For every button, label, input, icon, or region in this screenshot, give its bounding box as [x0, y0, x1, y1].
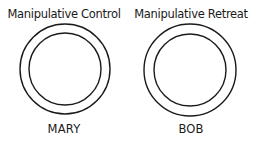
person-name: BOB	[127, 122, 255, 136]
inner-circle	[154, 34, 226, 106]
outer-circle	[144, 24, 236, 116]
inner-circle	[29, 33, 101, 105]
person-name: MARY	[0, 122, 128, 136]
outer-circle	[20, 24, 110, 114]
figure-mary: Manipulative Control MARY	[0, 0, 128, 143]
figure-bob: Manipulative Retreat BOB	[127, 0, 255, 143]
